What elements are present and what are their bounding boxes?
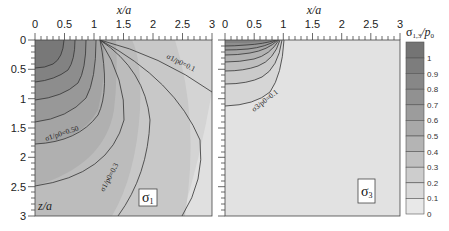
panel-sigma3: 0 0.5 1 1.5 2 2.5 3 x/a σ3/p0=0.1 σ3 [218, 3, 403, 216]
xtick-label: 1.5 [116, 18, 131, 30]
xtick-label: 0.5 [247, 18, 262, 30]
ztick-label: 1.5 [11, 122, 26, 134]
ztick-label: 2 [20, 151, 26, 163]
sigma3-z-ticks [218, 40, 225, 216]
xtick-label: 0.5 [57, 18, 72, 30]
panel-sigma1: 0 0.5 1 1.5 2 2.5 3 x/a 0 0.5 1 1.5 2 2.… [11, 3, 215, 222]
sigma3-x-tick-labels: 0 0.5 1 1.5 2 2.5 3 [222, 18, 403, 30]
sigma1-z-ticks [28, 40, 35, 216]
xtick-label: 0 [32, 18, 38, 30]
ztick-label: 0.5 [11, 63, 26, 75]
xtick-label: 3 [397, 18, 403, 30]
colorbar: σ1,3/p0 0 0.1 0.2 0.3 0.4 0.5 0.6 0.7 0.… [406, 25, 439, 219]
xtick-label: 1 [280, 18, 286, 30]
figure: 0 0.5 1 1.5 2 2.5 3 x/a 0 0.5 1 1.5 2 2.… [0, 0, 449, 231]
colorbar-tick-labels: 0 0.1 0.2 0.3 0.4 0.5 0.6 0.7 0.8 0.9 1 [427, 54, 439, 219]
sigma3-x-axis-title: x/a [306, 3, 322, 17]
sigma3-panel-label: σ3 [358, 179, 375, 203]
sigma1-z-tick-labels: 0 0.5 1 1.5 2 2.5 3 [11, 34, 26, 222]
colorbar-tick: 0.3 [427, 163, 439, 172]
colorbar-tick: 0.5 [427, 132, 439, 141]
ztick-label: 0 [20, 34, 26, 46]
sigma3-x-ticks [225, 33, 400, 40]
sigma1-x-tick-labels: 0 0.5 1 1.5 2 2.5 3 [32, 18, 215, 30]
xtick-label: 1 [91, 18, 97, 30]
ztick-label: 3 [20, 210, 26, 222]
xtick-label: 0 [222, 18, 228, 30]
colorbar-tick: 0.2 [427, 179, 439, 188]
sigma1-x-axis-title: x/a [116, 3, 132, 17]
ztick-label: 1 [20, 93, 26, 105]
colorbar-tick: 0.8 [427, 85, 439, 94]
colorbar-tick: 0.7 [427, 101, 439, 110]
sigma1-x-ticks [35, 33, 212, 40]
xtick-label: 1.5 [305, 18, 320, 30]
xtick-label: 3 [209, 18, 215, 30]
xtick-label: 2.5 [363, 18, 378, 30]
sigma1-z-axis-title: z/a [37, 199, 52, 213]
colorbar-tick: 0.9 [427, 70, 439, 79]
colorbar-tick: 0.6 [427, 116, 439, 125]
sigma1-panel-label: σ1 [139, 189, 157, 206]
xtick-label: 2.5 [175, 18, 190, 30]
xtick-label: 2 [339, 18, 345, 30]
colorbar-title: σ1,3/p0 [406, 25, 435, 40]
colorbar-tick: 1 [427, 54, 432, 63]
colorbar-tick: 0.4 [427, 148, 439, 157]
colorbar-tick: 0 [427, 210, 432, 219]
ztick-label: 2.5 [11, 181, 26, 193]
colorbar-tick: 0.1 [427, 194, 439, 203]
xtick-label: 2 [150, 18, 156, 30]
